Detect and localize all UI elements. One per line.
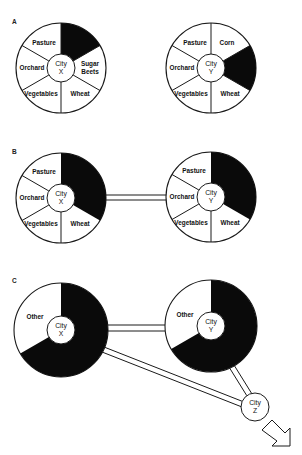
city-name: City xyxy=(205,189,217,197)
sector-label-other: Other xyxy=(176,311,194,318)
panel-label-b: B xyxy=(12,148,17,155)
sector-label-orchard: Orchard xyxy=(170,193,195,200)
road-x-y xyxy=(105,195,167,200)
sector-label-vegetables: Vegetables xyxy=(24,90,58,98)
sector-label-vegetables: Vegetables xyxy=(24,220,58,228)
panel-c-city-x-ring: City X Other xyxy=(14,283,108,377)
panel-label-a: A xyxy=(12,18,17,25)
sector-label-corn: Corn xyxy=(220,39,235,46)
city-name: City xyxy=(205,60,217,68)
city-letter: Y xyxy=(209,197,214,204)
sector-label-wheat: Wheat xyxy=(70,220,90,227)
sector-label-vegetables: Vegetables xyxy=(174,219,208,227)
city-letter: X xyxy=(59,68,64,75)
diagram-canvas: A City X Pasture Orchard Sugar Beets Veg… xyxy=(0,0,302,455)
city-letter: Y xyxy=(209,326,214,333)
sector-label-orchard: Orchard xyxy=(20,194,45,201)
panel-b-city-x-ring: City X Pasture Orchard Vegetables Wheat xyxy=(16,153,106,243)
panel-b-city-y-ring: City Y Pasture Orchard Vegetables Wheat xyxy=(166,152,256,242)
sector-label-vegetables: Vegetables xyxy=(174,90,208,98)
sector-label-beets: Beets xyxy=(81,68,99,75)
sector-label-pasture: Pasture xyxy=(32,39,56,46)
sector-label-sugar: Sugar xyxy=(81,60,100,68)
city-letter: Y xyxy=(209,68,214,75)
city-letter: X xyxy=(59,330,64,337)
panel-c-city-y-ring: City Y Other xyxy=(165,280,257,372)
city-letter: Z xyxy=(253,407,257,414)
road-y-z xyxy=(229,365,252,396)
city-name: City xyxy=(55,190,67,198)
road-x-y xyxy=(107,325,165,331)
panel-a-city-x-ring: City X Pasture Orchard Sugar Beets Veget… xyxy=(16,23,106,113)
sector-label-pasture: Pasture xyxy=(32,168,56,175)
city-letter: X xyxy=(59,198,64,205)
sector-label-orchard: Orchard xyxy=(170,64,195,71)
sector-label-wheat: Wheat xyxy=(220,90,240,97)
panel-c-city-z: City Z xyxy=(241,393,269,421)
sector-label-orchard: Orchard xyxy=(20,64,45,71)
sector-label-pasture: Pasture xyxy=(183,39,207,46)
city-name: City xyxy=(205,318,217,326)
sector-label-other: Other xyxy=(26,313,44,320)
sector-label-wheat: Wheat xyxy=(70,90,90,97)
sector-label-wheat: Wheat xyxy=(220,219,240,226)
city-name: City xyxy=(55,322,67,330)
city-name: City xyxy=(249,399,261,407)
panel-a-city-y-ring: City Y Pasture Corn Orchard Vegetables W… xyxy=(166,23,256,113)
sector-label-pasture: Pasture xyxy=(182,167,206,174)
city-name: City xyxy=(55,60,67,68)
outbound-arrow-icon xyxy=(262,420,290,446)
panel-label-c: C xyxy=(12,277,17,284)
